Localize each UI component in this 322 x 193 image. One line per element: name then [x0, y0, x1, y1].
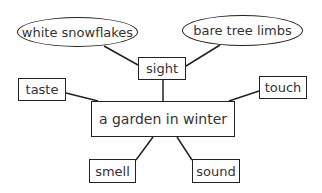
connector-smell-center	[136, 137, 153, 160]
detail-label: bare tree limbs	[193, 23, 292, 38]
sense-sight: sight	[138, 57, 186, 80]
center-topic: a garden in winter	[91, 101, 235, 137]
connector-limbs-sight	[186, 45, 220, 66]
sense-taste: taste	[18, 78, 66, 101]
connector-taste-center	[66, 93, 98, 101]
detail-label: white snowflakes	[22, 25, 133, 40]
sense-label: smell	[95, 164, 130, 179]
detail-white-snowflakes: white snowflakes	[17, 17, 138, 47]
sense-sound: sound	[192, 159, 240, 183]
connector-touch-center	[229, 91, 259, 101]
sense-label: sight	[146, 61, 178, 76]
sense-label: sound	[196, 164, 235, 179]
connector-snowflakes-sight	[104, 46, 138, 65]
detail-bare-tree-limbs: bare tree limbs	[182, 15, 303, 46]
sense-label: touch	[265, 80, 302, 95]
center-label: a garden in winter	[99, 111, 227, 127]
sense-touch: touch	[259, 76, 307, 99]
sense-smell: smell	[89, 159, 136, 183]
connector-sound-center	[177, 137, 192, 160]
sense-label: taste	[26, 82, 59, 97]
